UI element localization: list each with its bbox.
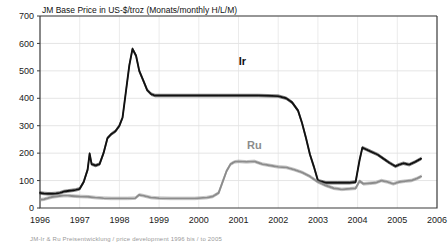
svg-text:400: 400 [19, 93, 34, 103]
chart-caption: JM-Ir & Ru Preisentwicklung / price deve… [30, 236, 222, 242]
svg-text:2006: 2006 [427, 215, 447, 225]
svg-text:Ir: Ir [239, 55, 247, 67]
svg-text:300: 300 [19, 121, 34, 131]
svg-text:0: 0 [29, 203, 34, 213]
svg-text:2000: 2000 [189, 215, 209, 225]
svg-text:2005: 2005 [387, 215, 407, 225]
svg-text:Ru: Ru [247, 139, 262, 151]
svg-text:200: 200 [19, 148, 34, 158]
svg-text:1997: 1997 [70, 215, 90, 225]
svg-text:1996: 1996 [30, 215, 50, 225]
svg-text:2002: 2002 [268, 215, 288, 225]
svg-text:2003: 2003 [308, 215, 328, 225]
svg-text:1998: 1998 [109, 215, 129, 225]
svg-text:1999: 1999 [149, 215, 169, 225]
chart-container: 0100200300400500600700 19961997199819992… [0, 0, 448, 245]
svg-text:700: 700 [19, 11, 34, 21]
svg-text:600: 600 [19, 39, 34, 49]
svg-text:2004: 2004 [348, 215, 368, 225]
svg-text:100: 100 [19, 176, 34, 186]
chart-title: JM Base Price in US-$/troz (Monats/month… [42, 5, 237, 15]
svg-text:500: 500 [19, 66, 34, 76]
price-line-chart: 0100200300400500600700 19961997199819992… [0, 0, 448, 245]
svg-text:2001: 2001 [228, 215, 248, 225]
